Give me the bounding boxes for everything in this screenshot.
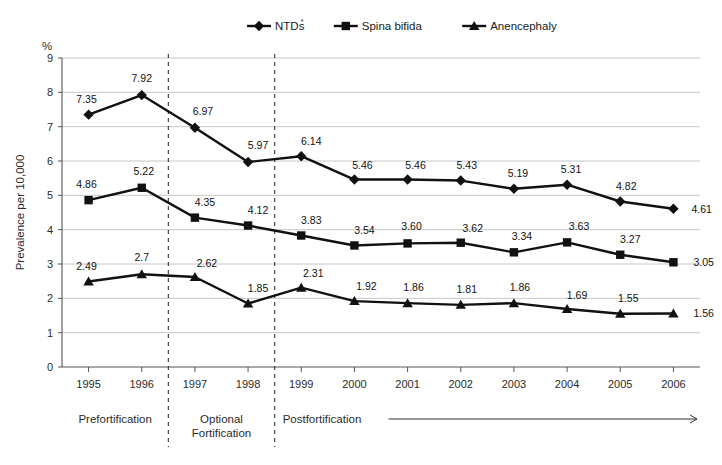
data-point-marker: [403, 239, 411, 247]
data-point-marker: [254, 21, 264, 31]
y-tick-label: 7: [47, 121, 53, 133]
data-point-label: 4.86: [76, 178, 97, 190]
legend-item-anencephaly[interactable]: Anencephaly: [462, 20, 557, 32]
series-anencephaly: [83, 269, 678, 317]
y-axis-title: Prevalence per 10,000: [14, 155, 26, 271]
legend-label: Spina bifida: [362, 20, 423, 32]
x-tick-label: 1998: [236, 378, 260, 390]
data-point-label: 4.82: [616, 180, 637, 192]
data-point-label: 2.31: [303, 267, 324, 279]
x-tick-label: 2004: [555, 378, 579, 390]
x-tick-label: 1997: [183, 378, 207, 390]
legend-marker: [342, 22, 350, 30]
grid-lines: [58, 58, 700, 367]
y-tick-label: 5: [47, 189, 53, 201]
data-point-marker: [457, 239, 465, 247]
data-point-marker: [296, 151, 306, 161]
data-point-marker: [402, 174, 412, 184]
data-point-marker: [509, 184, 519, 194]
legend-superscript: *: [301, 18, 304, 25]
data-point-label: 5.46: [352, 159, 373, 171]
legend-item-spina-bifida[interactable]: Spina bifida: [334, 20, 423, 32]
y-tick-label: 8: [47, 86, 53, 98]
data-point-label: 5.97: [248, 139, 269, 151]
data-point-label: 5.22: [134, 165, 155, 177]
data-point-label: 4.35: [195, 196, 216, 208]
x-tick-label: 1996: [130, 378, 154, 390]
data-point-label: 3.34: [512, 230, 533, 242]
data-point-marker: [342, 22, 350, 30]
data-point-marker: [669, 258, 677, 266]
data-point-marker: [456, 175, 466, 185]
data-point-marker: [668, 204, 678, 214]
y-tick-label: 9: [47, 52, 53, 64]
data-point-label: 1.55: [618, 292, 639, 304]
x-tick-label: 2000: [342, 378, 366, 390]
x-tick-label: 2006: [661, 378, 685, 390]
data-point-marker: [191, 213, 199, 221]
legend-item-ntds[interactable]: NTDs*: [247, 18, 305, 32]
data-point-label: 3.63: [569, 220, 590, 232]
y-tick-label: 6: [47, 155, 53, 167]
data-point-marker: [350, 241, 358, 249]
data-point-label: 5.19: [508, 167, 529, 179]
annotation-optional-fortification-line2: Fortification: [192, 427, 251, 439]
data-point-marker: [297, 231, 305, 239]
data-point-marker: [244, 221, 252, 229]
data-point-label: 1.86: [510, 281, 531, 293]
data-point-label: 1.69: [567, 289, 588, 301]
data-point-label: 2.7: [134, 251, 149, 263]
x-tick-label: 2001: [395, 378, 419, 390]
x-tick-label: 2003: [502, 378, 526, 390]
data-point-marker: [616, 251, 624, 259]
data-point-label: 5.46: [405, 159, 426, 171]
data-point-label: 2.62: [197, 257, 218, 269]
annotation-postfortification: Postfortification: [283, 413, 362, 425]
legend-label: Anencephaly: [490, 20, 557, 32]
data-point-label: 5.31: [561, 163, 582, 175]
data-point-marker: [562, 179, 572, 189]
y-tick-label: 3: [47, 258, 53, 270]
data-point-marker: [349, 174, 359, 184]
data-point-marker: [615, 196, 625, 206]
data-point-label: 3.54: [354, 224, 375, 236]
legend-marker: [254, 21, 264, 31]
annotation-optional-fortification: Optional: [200, 413, 243, 425]
x-tick-label: 2005: [608, 378, 632, 390]
data-point-marker: [510, 248, 518, 256]
data-point-label: 3.60: [401, 220, 422, 232]
data-point-label: 1.85: [248, 282, 269, 294]
x-tick-label: 1995: [76, 378, 100, 390]
y-tick-label: 1: [47, 327, 53, 339]
data-point-label: 1.92: [356, 280, 377, 292]
data-point-marker: [296, 283, 306, 292]
data-point-label: 2.49: [76, 260, 97, 272]
chart-container: 0123456789%Prevalence per 10,00019951996…: [0, 0, 722, 465]
data-point-label: 3.05: [693, 256, 714, 268]
data-point-label: 7.92: [132, 72, 153, 84]
data-point-label: 1.86: [403, 281, 424, 293]
data-point-label: 3.62: [463, 222, 484, 234]
data-point-label: 1.56: [693, 307, 714, 319]
data-point-marker: [138, 184, 146, 192]
data-point-marker: [83, 109, 93, 119]
data-point-label: 4.12: [248, 204, 269, 216]
x-tick-label: 2002: [449, 378, 473, 390]
data-point-marker: [563, 238, 571, 246]
data-point-label: 1.81: [457, 283, 478, 295]
y-axis-unit: %: [42, 40, 52, 52]
data-point-label: 4.61: [691, 203, 712, 215]
series-line: [89, 95, 674, 209]
data-point-label: 5.43: [457, 159, 478, 171]
annotation-prefortification: Prefortification: [78, 413, 152, 425]
data-point-label: 3.83: [301, 214, 322, 226]
data-point-label: 7.35: [76, 93, 97, 105]
x-tick-label: 1999: [289, 378, 313, 390]
y-tick-label: 4: [47, 224, 53, 236]
data-point-marker: [84, 196, 92, 204]
data-point-label: 6.14: [301, 135, 322, 147]
data-point-label: 3.27: [620, 233, 641, 245]
y-tick-label: 0: [47, 361, 53, 373]
data-point-label: 6.97: [193, 105, 214, 117]
neural-tube-defect-prevalence-line-chart: 0123456789%Prevalence per 10,00019951996…: [0, 0, 722, 465]
